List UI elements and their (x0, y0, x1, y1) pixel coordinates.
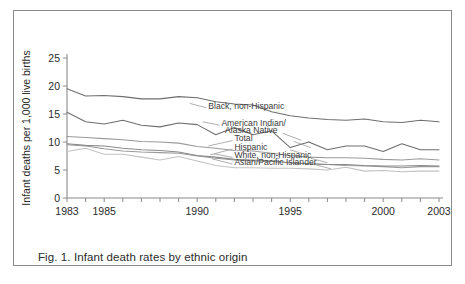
y-tick-label: 20 (48, 80, 60, 92)
label-leader-line (208, 141, 232, 146)
x-tick-label: 1990 (186, 205, 210, 217)
y-axis: 0510152025 (48, 52, 67, 204)
y-axis-title: Infant deaths per 1,000 live births (20, 50, 32, 205)
y-tick-label: 15 (48, 108, 60, 120)
label-leader-line (283, 133, 302, 140)
label-leader-line (316, 165, 331, 169)
x-tick-label: 1983 (55, 205, 79, 217)
line-chart-svg: 0510152025 198319851990199520002003 Blac… (14, 11, 453, 246)
x-axis: 198319851990199520002003 (55, 198, 451, 217)
y-axis-title-text: Infant deaths per 1,000 live births (20, 50, 32, 205)
x-tick-label: 2003 (427, 205, 451, 217)
y-tick-label: 5 (54, 164, 60, 176)
series-label: Asian/Pacific Islander (234, 157, 316, 167)
y-tick-label: 10 (48, 136, 60, 148)
series-labels: Black, non-HispanicAmerican Indian/Alask… (190, 101, 331, 169)
x-tick-label: 1985 (93, 205, 117, 217)
series-label: Black, non-Hispanic (208, 101, 285, 111)
figure-container: 0510152025 198319851990199520002003 Blac… (13, 10, 452, 266)
label-leader-line (190, 103, 207, 107)
label-leader-line (210, 149, 232, 155)
chart-plot-area: 0510152025 198319851990199520002003 Blac… (14, 11, 453, 267)
label-leader-line (203, 122, 220, 125)
y-tick-label: 0 (54, 192, 60, 204)
x-tick-label: 2000 (372, 205, 396, 217)
y-tick-label: 25 (48, 52, 60, 64)
figure-caption: Fig. 1. Infant death rates by ethnic ori… (38, 251, 248, 263)
x-tick-label: 1995 (279, 205, 303, 217)
